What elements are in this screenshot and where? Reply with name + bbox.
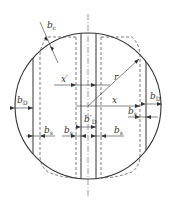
label-bs-left-inner: bs [64, 125, 73, 136]
bc-arrow-inner [50, 46, 54, 51]
x-prime-arrow-right [91, 83, 96, 87]
active-area-boundary-left [40, 37, 76, 178]
label-bd-prime: b′D [84, 114, 97, 125]
label-bs-right-weir: bs [128, 106, 137, 117]
bs-center-right-arrow-b [101, 134, 106, 138]
label-bd-right: bD [150, 91, 161, 102]
active-area-boundary-right [101, 37, 140, 178]
label-x-prime: x′ [61, 74, 68, 84]
bs-center-left-arrow-b [81, 134, 86, 138]
x-prime-arrow-left [71, 83, 76, 87]
label-bs-center-right: bs [114, 125, 123, 136]
bs-center-right-arrow-a [91, 134, 96, 138]
label-bc: bc [47, 20, 57, 31]
bs-left-arrow-a [28, 134, 33, 138]
label-bs-left-outer: bs [44, 125, 53, 136]
label-bd-left: bD [17, 95, 28, 106]
bs-right-arrow-right [146, 115, 151, 119]
label-x: x [112, 95, 117, 105]
label-r: r [114, 72, 119, 82]
tray-layout-diagram: bc r x′ x bD bD bs b′D bs bs bs [0, 0, 175, 204]
